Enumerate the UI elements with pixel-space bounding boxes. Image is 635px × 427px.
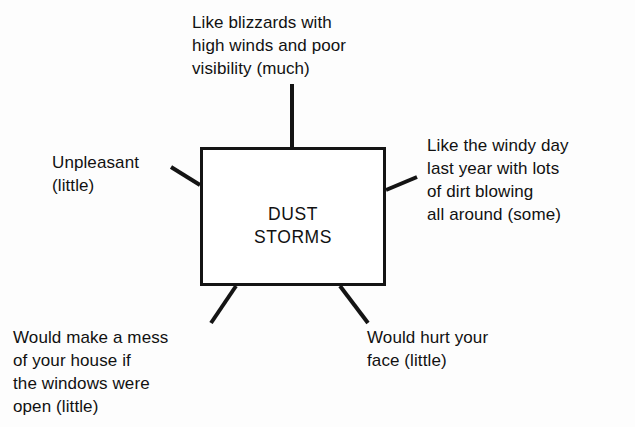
central-node-label: DUST STORMS bbox=[254, 203, 332, 249]
connector-line-right bbox=[386, 177, 417, 190]
central-node-box: DUST STORMS bbox=[200, 147, 386, 286]
connector-line-bottom-right bbox=[340, 286, 368, 323]
branch-label-top: Like blizzards with high winds and poor … bbox=[192, 11, 346, 80]
branch-label-bottom-right: Would hurt your face (little) bbox=[367, 326, 488, 372]
connector-line-left bbox=[171, 167, 200, 185]
concept-map-diagram: DUST STORMS Like blizzards with high win… bbox=[0, 0, 635, 427]
branch-label-bottom-left: Would make a mess of your house if the w… bbox=[13, 326, 168, 418]
branch-label-right: Like the windy day last year with lots o… bbox=[427, 134, 569, 226]
branch-label-left: Unpleasant (little) bbox=[52, 151, 139, 197]
connector-line-bottom-left bbox=[211, 286, 236, 323]
